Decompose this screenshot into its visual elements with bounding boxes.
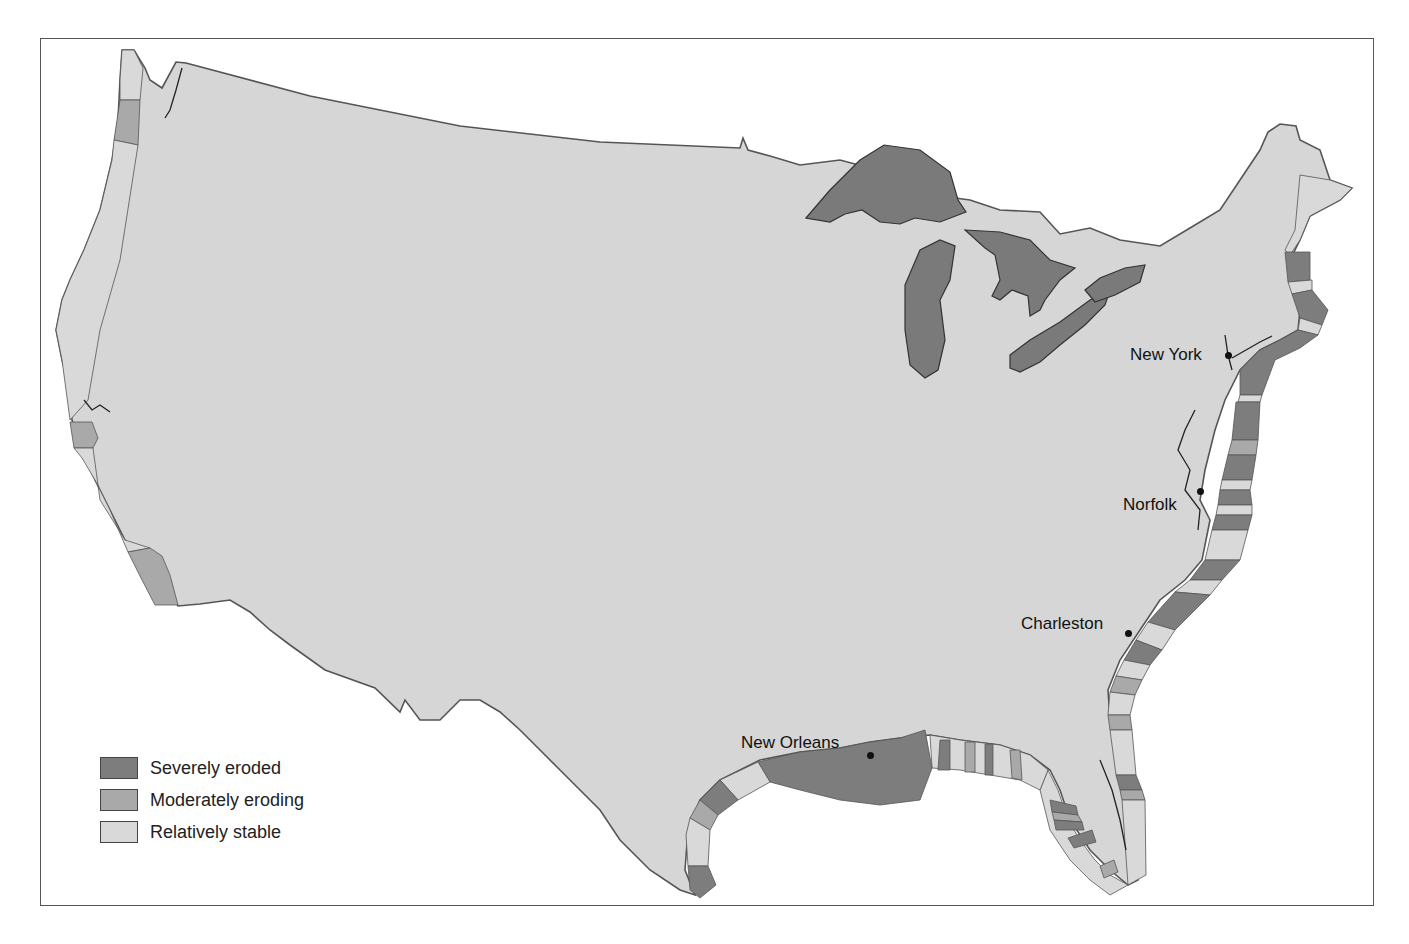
legend-label: Relatively stable: [150, 822, 281, 843]
coast-band-moderate: [1010, 750, 1022, 780]
legend-label: Moderately eroding: [150, 790, 304, 811]
coast-band-stable: [1205, 530, 1248, 560]
legend-swatch-moderate: [100, 789, 138, 811]
city-label-charleston: Charleston: [1021, 614, 1103, 634]
city-dot-new-york: [1225, 352, 1232, 359]
coast-band-stable: [120, 50, 143, 100]
coast-band-stable: [1220, 480, 1252, 490]
coast-band-severe: [1285, 252, 1310, 282]
legend-item-severely-eroded: Severely eroded: [100, 752, 304, 784]
coast-band-stable: [1108, 692, 1135, 715]
legend-swatch-stable: [100, 821, 138, 843]
coast-band-severe: [985, 744, 993, 775]
coast-band-severe: [1232, 402, 1260, 440]
legend-item-relatively-stable: Relatively stable: [100, 816, 304, 848]
coast-band-moderate: [70, 422, 98, 448]
coast-band-severe: [1212, 515, 1252, 530]
coast-band-moderate: [1228, 440, 1258, 455]
coast-band-severe: [938, 740, 950, 770]
coast-band-stable: [1238, 395, 1262, 402]
coast-band-moderate: [1108, 715, 1132, 730]
legend-label: Severely eroded: [150, 758, 281, 779]
city-dot-charleston: [1125, 630, 1132, 637]
coast-band-severe: [1222, 455, 1256, 480]
city-dot-norfolk: [1197, 488, 1204, 495]
coast-band-severe: [1054, 820, 1084, 830]
coast-band-severe: [1116, 775, 1142, 790]
map-legend: Severely eroded Moderately eroding Relat…: [100, 752, 304, 848]
city-label-norfolk: Norfolk: [1123, 495, 1177, 515]
city-label-new-orleans: New Orleans: [741, 733, 839, 753]
coast-band-stable: [1216, 505, 1252, 515]
coast-band-moderate: [1120, 790, 1145, 800]
legend-swatch-severe: [100, 757, 138, 779]
coast-band-moderate: [965, 742, 975, 772]
legend-item-moderately-eroding: Moderately eroding: [100, 784, 304, 816]
city-dot-new-orleans: [867, 752, 874, 759]
coast-band-severe: [1218, 490, 1252, 505]
city-label-new-york: New York: [1130, 345, 1202, 365]
